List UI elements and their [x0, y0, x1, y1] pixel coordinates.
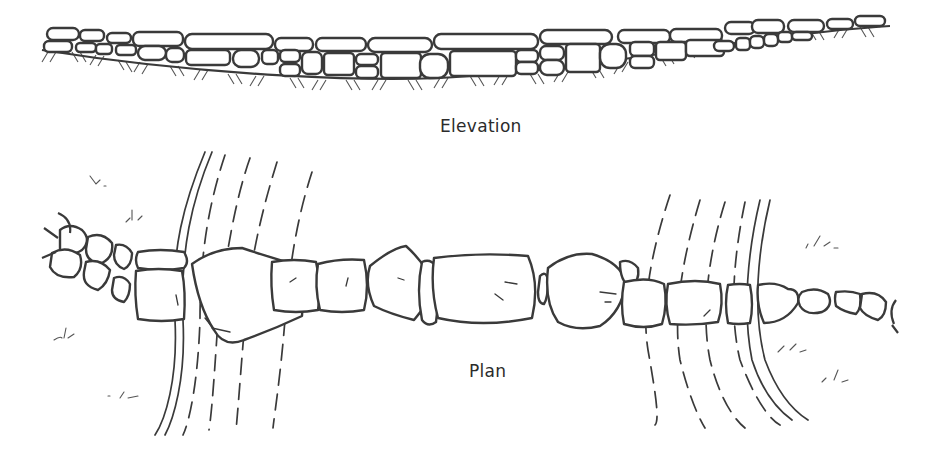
plan-drawing: [0, 0, 933, 450]
diagram-canvas: Elevation: [0, 0, 933, 450]
wall-end-right: [891, 300, 898, 333]
plan-label: Plan: [469, 361, 506, 381]
